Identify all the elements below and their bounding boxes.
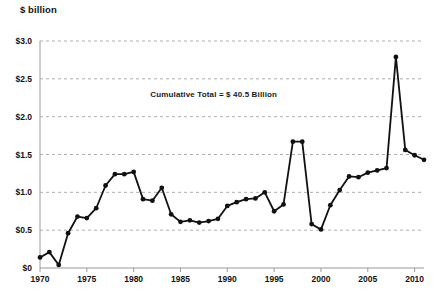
line-chart: $ billion $0$0.5$1.0$1.5$2.0$2.5$3.01970… xyxy=(0,0,435,303)
data-point-marker xyxy=(47,250,52,255)
data-point-marker xyxy=(66,231,71,236)
y-axis-tick-label: $0.5 xyxy=(2,225,32,235)
data-point-marker xyxy=(103,183,108,188)
data-point-marker xyxy=(122,172,127,177)
x-axis-tick-label: 1980 xyxy=(117,274,151,284)
y-axis-tick-label: $1.0 xyxy=(2,187,32,197)
data-point-marker xyxy=(94,206,99,211)
data-point-marker xyxy=(309,222,314,227)
data-point-marker xyxy=(150,198,155,203)
data-point-marker xyxy=(319,227,324,232)
y-axis-tick-label: $0 xyxy=(2,263,32,273)
data-point-marker xyxy=(412,153,417,158)
data-point-marker xyxy=(197,220,202,225)
data-point-marker xyxy=(131,170,136,175)
series-line xyxy=(40,57,424,265)
x-axis-tick-label: 2010 xyxy=(398,274,432,284)
data-point-marker xyxy=(262,190,267,195)
data-point-marker xyxy=(38,255,43,260)
data-point-marker xyxy=(225,204,230,209)
x-axis-tick-label: 1985 xyxy=(163,274,197,284)
data-point-marker xyxy=(84,216,89,221)
y-axis-tick-label: $2.0 xyxy=(2,112,32,122)
chart-plot-area xyxy=(0,0,435,303)
data-point-marker xyxy=(244,197,249,202)
data-point-marker xyxy=(384,166,389,171)
y-axis-tick-label: $2.5 xyxy=(2,74,32,84)
data-point-marker xyxy=(365,170,370,175)
data-point-marker xyxy=(272,209,277,214)
data-point-marker xyxy=(375,168,380,173)
data-point-marker xyxy=(300,139,305,144)
data-point-marker xyxy=(75,214,80,219)
data-point-marker xyxy=(113,172,118,177)
x-axis-tick-label: 1970 xyxy=(23,274,57,284)
data-point-marker xyxy=(159,185,164,190)
data-point-marker xyxy=(234,200,239,205)
data-point-marker xyxy=(187,218,192,223)
x-axis-tick-label: 2005 xyxy=(351,274,385,284)
x-axis-tick-label: 1975 xyxy=(70,274,104,284)
data-point-marker xyxy=(394,54,399,59)
data-point-marker xyxy=(253,196,258,201)
y-axis-tick-label: $3.0 xyxy=(2,36,32,46)
data-point-marker xyxy=(141,197,146,202)
data-point-marker xyxy=(337,188,342,193)
data-point-marker xyxy=(281,202,286,207)
data-point-marker xyxy=(169,212,174,217)
data-point-marker xyxy=(328,203,333,208)
data-point-marker xyxy=(206,219,211,224)
data-point-marker xyxy=(56,263,61,268)
x-axis-tick-label: 2000 xyxy=(304,274,338,284)
x-axis-tick-label: 1990 xyxy=(210,274,244,284)
data-point-marker xyxy=(178,219,183,224)
data-point-marker xyxy=(356,175,361,180)
x-axis-tick-label: 1995 xyxy=(257,274,291,284)
cumulative-total-annotation: Cumulative Total = $ 40.5 Billion xyxy=(150,90,277,99)
data-point-marker xyxy=(403,148,408,153)
data-point-marker xyxy=(290,139,295,144)
y-axis-tick-label: $1.5 xyxy=(2,150,32,160)
data-point-marker xyxy=(347,174,352,179)
data-point-marker xyxy=(422,157,427,162)
data-point-marker xyxy=(216,216,221,221)
